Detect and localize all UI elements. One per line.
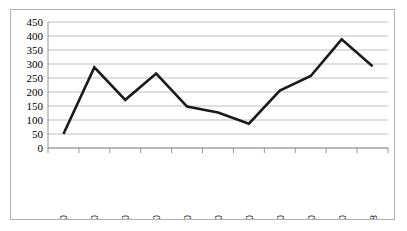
y-axis-tick-label: 50	[32, 128, 44, 140]
x-axis-tick-label: 1971–80	[275, 215, 286, 219]
x-axis-tick-label: 2001–8	[368, 215, 379, 219]
chart-frame: 050100150200250300350400450 1904–101911–…	[10, 9, 395, 220]
x-axis-tick-labels: 1904–101911–201921–301931–401941–501951–…	[58, 215, 378, 219]
x-axis-tickmarks	[48, 148, 388, 153]
x-axis-tick-label: 1961–70	[244, 215, 255, 219]
x-axis-tick-label: 1951–60	[213, 215, 224, 219]
y-axis-tick-label: 100	[27, 114, 44, 126]
y-axis-tick-label: 450	[27, 16, 44, 28]
x-axis-tick-label: 1921–30	[120, 215, 131, 219]
y-axis-tick-label: 250	[27, 72, 44, 84]
y-axis-tick-label: 150	[27, 100, 44, 112]
y-axis-tick-labels: 050100150200250300350400450	[27, 16, 44, 154]
line-chart: 050100150200250300350400450 1904–101911–…	[11, 10, 394, 219]
y-axis-tick-label: 300	[27, 58, 44, 70]
y-axis-tick-label: 0	[38, 142, 44, 154]
chart-plot-area: 050100150200250300350400450 1904–101911–…	[11, 10, 394, 219]
y-axis-tick-label: 350	[27, 44, 44, 56]
x-axis-tick-label: 1931–40	[151, 215, 162, 219]
y-axis-tick-label: 400	[27, 30, 44, 42]
x-axis-tick-label: 1904–10	[58, 215, 69, 219]
x-axis-tick-label: 1981–90	[306, 215, 317, 219]
x-axis-tick-label: 1911–20	[89, 215, 100, 219]
x-axis-tick-label: 1991–2000	[337, 215, 348, 219]
gridlines-group	[48, 22, 388, 148]
y-axis-tick-label: 200	[27, 86, 44, 98]
x-axis-tick-label: 1941–50	[182, 215, 193, 219]
